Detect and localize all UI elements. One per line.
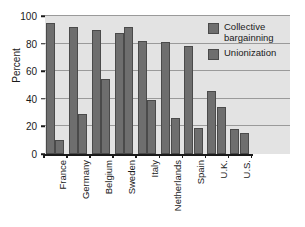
x-tick-mark [89, 154, 91, 158]
legend-label-collective-bargaining: Collectivebargainning [224, 22, 274, 43]
legend-label-line-1: Collective [224, 21, 265, 32]
legend-item-collective-bargaining: Collectivebargainning [208, 22, 300, 43]
bar [124, 27, 133, 154]
bar [240, 133, 249, 154]
bar [230, 129, 239, 154]
x-tick-label: Spain [195, 160, 206, 184]
x-tick-label: Sweden [126, 160, 137, 194]
y-tick-mark [41, 126, 45, 128]
bar [92, 30, 101, 154]
x-tick-label: Belgium [103, 160, 114, 194]
x-tick-mark [182, 154, 184, 158]
y-tick-mark [41, 15, 45, 17]
chart-legend: Collectivebargainning Unionization [208, 22, 300, 65]
x-tick-label: U.K. [218, 160, 229, 178]
bar [171, 118, 180, 154]
bar [46, 23, 55, 154]
y-tick-label: 40 [0, 93, 37, 104]
y-tick-label: 0 [0, 149, 37, 160]
y-tick-label: 100 [0, 11, 37, 22]
y-tick-mark [41, 153, 45, 155]
y-tick-mark [41, 43, 45, 45]
bar [78, 114, 87, 154]
bar [55, 140, 64, 154]
y-tick-label: 20 [0, 121, 37, 132]
legend-swatch-unionization [208, 49, 219, 60]
bar-group [69, 16, 88, 154]
bar [138, 41, 147, 154]
y-tick-mark [41, 70, 45, 72]
bar-group [161, 16, 180, 154]
y-tick-mark [41, 98, 45, 100]
bar [194, 128, 203, 154]
x-tick-mark [159, 154, 161, 158]
bar [115, 33, 124, 154]
x-axis-line [45, 154, 253, 156]
y-tick-label: 80 [0, 38, 37, 49]
x-tick-mark [228, 154, 230, 158]
x-tick-mark [112, 154, 114, 158]
legend-label-line-2: bargainning [224, 32, 274, 43]
x-tick-label: Netherlands [172, 160, 183, 211]
legend-item-unionization: Unionization [208, 48, 300, 60]
bar-group [46, 16, 65, 154]
x-tick-mark [66, 154, 68, 158]
chart-figure: Percent 020406080100 FranceGermanyBelgiu… [0, 0, 305, 227]
bar [207, 91, 216, 154]
bar [69, 27, 78, 154]
legend-swatch-collective-bargaining [208, 23, 219, 34]
bar [184, 46, 193, 154]
x-tick-label: Germany [80, 160, 91, 199]
x-tick-mark [251, 154, 253, 158]
x-tick-label: Italy [149, 160, 160, 177]
bar [101, 79, 110, 154]
bar [161, 42, 170, 154]
bar [147, 100, 156, 154]
y-tick-label: 60 [0, 66, 37, 77]
bar-group [184, 16, 203, 154]
x-tick-label: France [57, 160, 68, 190]
legend-label-unionization: Unionization [224, 48, 276, 59]
bar-group [138, 16, 157, 154]
x-tick-mark [205, 154, 207, 158]
bar-group [92, 16, 111, 154]
x-tick-label: U.S. [241, 160, 252, 178]
bar-group [115, 16, 134, 154]
bar [217, 107, 226, 154]
x-tick-mark [135, 154, 137, 158]
